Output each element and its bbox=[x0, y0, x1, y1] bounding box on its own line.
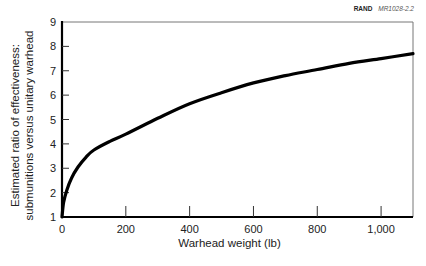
y-tick-label: 1 bbox=[50, 211, 56, 223]
y-tick-label: 3 bbox=[50, 162, 56, 174]
y-tick-label: 7 bbox=[50, 65, 56, 77]
x-axis-ticks: 02004006008001,000 bbox=[59, 206, 395, 235]
y-tick-label: 8 bbox=[50, 40, 56, 52]
x-tick-label: 1,000 bbox=[367, 223, 395, 235]
x-tick-label: 200 bbox=[117, 223, 135, 235]
y-tick-label: 4 bbox=[50, 138, 56, 150]
x-tick-label: 800 bbox=[308, 223, 326, 235]
x-tick-label: 0 bbox=[59, 223, 65, 235]
x-axis-title: Warhead weight (lb) bbox=[178, 237, 281, 249]
x-tick-label: 600 bbox=[244, 223, 262, 235]
line-chart: 123456789 02004006008001,000 Warhead wei… bbox=[0, 0, 426, 266]
effectiveness-curve bbox=[62, 54, 413, 217]
plot-frame bbox=[61, 21, 413, 218]
y-tick-label: 6 bbox=[50, 89, 56, 101]
x-tick-label: 400 bbox=[180, 223, 198, 235]
y-tick-label: 5 bbox=[50, 114, 56, 126]
y-tick-label: 9 bbox=[50, 16, 56, 28]
y-axis-title-line1: Estimated ratio of effectiveness: bbox=[9, 44, 21, 207]
y-tick-label: 2 bbox=[50, 187, 56, 199]
y-axis-title-line2: submunitions versus unitary warhead bbox=[23, 31, 35, 221]
